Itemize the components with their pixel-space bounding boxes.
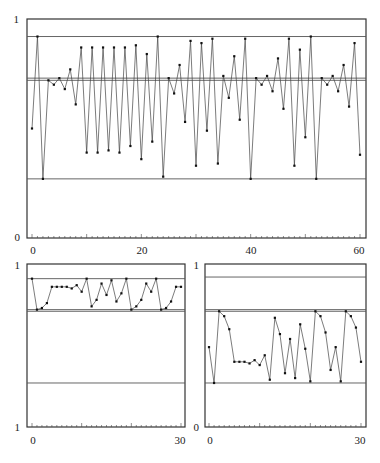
top-plot-frame <box>27 19 366 238</box>
bottom-left-panel: 1 1 0 30 <box>15 259 187 446</box>
data-point <box>100 282 102 284</box>
data-point <box>31 278 33 280</box>
bottom-right-y-max-label: 1 <box>194 259 200 271</box>
data-point <box>261 84 263 86</box>
data-point <box>42 178 44 180</box>
data-point <box>243 361 245 363</box>
data-point <box>304 136 306 138</box>
data-point <box>135 44 137 46</box>
data-point <box>124 46 126 48</box>
bottom-right-series-points <box>208 310 362 384</box>
data-point <box>250 178 252 180</box>
bottom-right-y-min-label: 0 <box>194 421 200 433</box>
bottom-left-plot-frame <box>27 264 185 427</box>
data-point <box>266 75 268 77</box>
data-point <box>69 68 71 70</box>
bottom-left-y-max-label: 1 <box>15 259 21 271</box>
data-point <box>293 165 295 167</box>
data-point <box>279 333 281 335</box>
bottom-right-x-label-30: 30 <box>355 434 367 446</box>
data-point <box>326 84 328 86</box>
data-point <box>31 127 33 129</box>
data-point <box>213 382 215 384</box>
data-point <box>53 84 55 86</box>
data-point <box>315 178 317 180</box>
data-point <box>310 35 312 37</box>
data-point <box>130 309 132 311</box>
data-point <box>146 53 148 55</box>
data-point <box>348 106 350 108</box>
data-point <box>360 361 362 363</box>
top-x-label-40: 40 <box>246 244 258 256</box>
data-point <box>264 354 266 356</box>
chart-canvas: 1 0 0 20 40 60 1 1 0 30 1 0 0 30 <box>0 0 380 463</box>
data-point <box>115 300 117 302</box>
bottom-left-y-min-label: 1 <box>15 421 21 433</box>
data-point <box>218 310 220 312</box>
data-point <box>324 331 326 333</box>
data-point <box>350 315 352 317</box>
data-point <box>284 372 286 374</box>
data-point <box>41 307 43 309</box>
data-point <box>228 97 230 99</box>
data-point <box>255 77 257 79</box>
data-point <box>321 77 323 79</box>
top-x-ticks <box>32 234 360 238</box>
data-point <box>289 338 291 340</box>
bottom-left-x-label-30: 30 <box>175 434 187 446</box>
data-point <box>228 328 230 330</box>
data-point <box>160 309 162 311</box>
data-point <box>343 64 345 66</box>
top-y-max-label: 1 <box>14 13 20 25</box>
data-point <box>61 286 63 288</box>
data-point <box>277 57 279 59</box>
bottom-left-x-label-0: 0 <box>30 434 36 446</box>
data-point <box>58 77 60 79</box>
bottom-left-series-points <box>31 278 182 311</box>
data-point <box>46 302 48 304</box>
data-point <box>309 380 311 382</box>
data-point <box>271 90 273 92</box>
data-point <box>157 35 159 37</box>
top-x-label-60: 60 <box>354 244 366 256</box>
data-point <box>345 310 347 312</box>
data-point <box>299 49 301 51</box>
data-point <box>105 294 107 296</box>
data-point <box>170 300 172 302</box>
data-point <box>319 315 321 317</box>
data-point <box>355 326 357 328</box>
data-point <box>97 151 99 153</box>
data-point <box>211 38 213 40</box>
top-x-label-0: 0 <box>30 244 36 256</box>
data-point <box>118 151 120 153</box>
data-point <box>113 46 115 48</box>
data-point <box>223 315 225 317</box>
data-point <box>314 310 316 312</box>
bottom-right-x-ticks <box>209 423 361 427</box>
data-point <box>107 149 109 151</box>
data-point <box>254 359 256 361</box>
data-point <box>337 90 339 92</box>
data-point <box>140 158 142 160</box>
data-point <box>95 299 97 301</box>
data-point <box>274 317 276 319</box>
data-point <box>129 145 131 147</box>
data-point <box>332 75 334 77</box>
data-point <box>151 141 153 143</box>
data-point <box>76 284 78 286</box>
data-point <box>179 64 181 66</box>
bottom-left-x-ticks <box>32 423 181 427</box>
data-point <box>340 380 342 382</box>
data-point <box>36 309 38 311</box>
data-point <box>135 305 137 307</box>
top-y-min-label: 0 <box>15 231 21 243</box>
bottom-right-plot-frame <box>205 264 366 427</box>
data-point <box>155 278 157 280</box>
data-point <box>200 42 202 44</box>
top-series-line <box>32 37 360 179</box>
top-x-label-20: 20 <box>137 244 149 256</box>
data-point <box>195 165 197 167</box>
data-point <box>120 292 122 294</box>
data-point <box>81 291 83 293</box>
data-point <box>51 286 53 288</box>
